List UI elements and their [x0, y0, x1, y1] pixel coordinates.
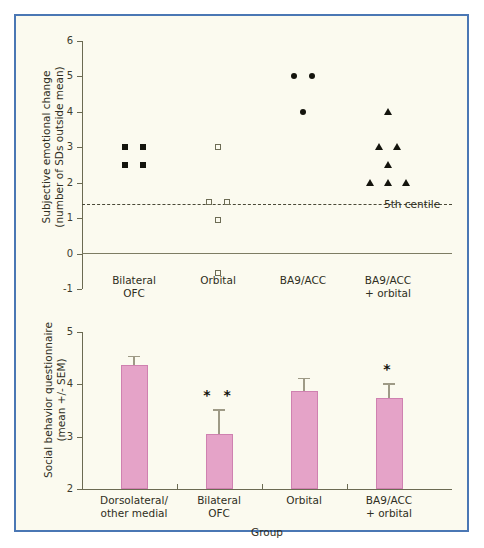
bar	[291, 391, 318, 489]
bar	[121, 365, 148, 489]
scatter-category-label-line1: Orbital	[170, 274, 266, 287]
scatter-y-tick-label: 5	[46, 70, 73, 81]
scatter-category-label-line1: Bilateral	[86, 274, 182, 287]
scatter-category-label: BA9/ACC+ orbital	[340, 274, 436, 299]
scatter-point-filled-triangle	[384, 108, 392, 115]
scatter-point-filled-triangle	[384, 161, 392, 168]
bar-chart: Social behavior questionnaire (mean +/- …	[16, 298, 467, 530]
error-bar-line	[388, 383, 389, 398]
scatter-point-filled-triangle	[366, 179, 374, 186]
scatter-point-open-square	[215, 217, 221, 223]
bar-y-tick-label: 3	[46, 431, 73, 442]
bar-x-axis-line	[82, 489, 452, 490]
scatter-y-tick-label: 0	[46, 248, 73, 259]
scatter-y-tick-label: 6	[46, 35, 73, 46]
figure-border-frame: Subjective emotional change (number of S…	[14, 14, 469, 532]
bar-y-tick-label: 2	[46, 483, 73, 494]
scatter-point-open-square	[215, 144, 221, 150]
scatter-5th-centile-label: 5th centile	[384, 198, 440, 210]
scatter-point-open-square	[206, 199, 212, 205]
scatter-point-filled-triangle	[402, 179, 410, 186]
bar-y-tick	[77, 384, 82, 385]
scatter-point-filled-triangle	[393, 143, 401, 150]
error-bar-cap	[298, 378, 310, 379]
bar-x-tick	[347, 484, 348, 490]
scatter-y-tick	[77, 289, 82, 290]
scatter-point-filled-circle	[300, 109, 306, 115]
bar	[376, 398, 403, 489]
scatter-y-tick	[77, 147, 82, 148]
scatter-y-tick	[77, 76, 82, 77]
scatter-zero-line	[82, 253, 452, 254]
error-bar-line	[303, 378, 304, 391]
scatter-y-tick-label: 4	[46, 106, 73, 117]
bar-y-tick	[77, 332, 82, 333]
scatter-y-tick-label: 2	[46, 177, 73, 188]
bar-y-tick	[77, 489, 82, 490]
scatter-y-tick	[77, 41, 82, 42]
scatter-y-tick	[77, 218, 82, 219]
significance-marker: *	[369, 361, 409, 377]
scatter-y-tick-label: 3	[46, 141, 73, 152]
error-bar-line	[133, 356, 134, 366]
error-bar-cap	[213, 409, 225, 410]
error-bar-line	[218, 409, 219, 433]
scatter-category-label-line1: BA9/ACC	[340, 274, 436, 287]
scatter-category-label: BilateralOFC	[86, 274, 182, 299]
scatter-point-filled-square	[140, 144, 146, 150]
bar	[206, 434, 233, 489]
bar-y-axis-line	[82, 332, 83, 490]
bar-x-axis-title: Group	[217, 526, 317, 538]
scatter-point-filled-square	[122, 144, 128, 150]
bar-category-label-line1: BA9/ACC	[339, 494, 439, 507]
scatter-point-filled-triangle	[384, 179, 392, 186]
scatter-y-axis-line	[82, 41, 83, 289]
figure-panel: Subjective emotional change (number of S…	[0, 0, 484, 548]
bar-y-axis-title-line1: Social behavior questionnaire	[42, 310, 55, 490]
scatter-y-tick-label: -1	[46, 283, 73, 294]
bar-y-axis-title: Social behavior questionnaire (mean +/- …	[42, 310, 67, 490]
bar-y-tick-label: 4	[46, 378, 73, 389]
scatter-category-label: Orbital	[170, 274, 266, 287]
bar-y-tick	[77, 437, 82, 438]
bar-x-tick	[262, 484, 263, 490]
scatter-category-label: BA9/ACC	[255, 274, 351, 287]
scatter-y-tick	[77, 112, 82, 113]
scatter-category-label-line1: BA9/ACC	[255, 274, 351, 287]
scatter-point-filled-square	[122, 162, 128, 168]
scatter-point-filled-circle	[291, 73, 297, 79]
bar-x-tick	[177, 484, 178, 490]
significance-marker: * *	[199, 387, 239, 403]
bar-y-tick-label: 5	[46, 326, 73, 337]
error-bar-cap	[383, 383, 395, 384]
bar-category-label-line2: OFC	[169, 507, 269, 520]
scatter-point-filled-square	[140, 162, 146, 168]
scatter-point-filled-triangle	[375, 143, 383, 150]
scatter-point-open-square	[224, 199, 230, 205]
error-bar-cap	[128, 356, 140, 357]
bar-y-axis-title-line2: (mean +/- SEM)	[55, 310, 68, 490]
scatter-point-filled-circle	[309, 73, 315, 79]
scatter-chart: Subjective emotional change (number of S…	[16, 16, 467, 298]
scatter-y-tick	[77, 183, 82, 184]
bar-category-label: BA9/ACC+ orbital	[339, 494, 439, 519]
bar-category-label-line2: + orbital	[339, 507, 439, 520]
scatter-y-tick-label: 1	[46, 212, 73, 223]
